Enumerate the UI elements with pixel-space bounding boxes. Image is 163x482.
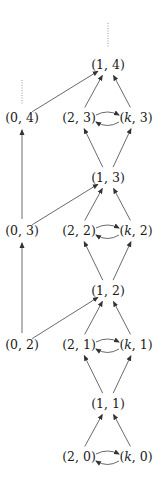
- node-n11: (1, 1): [91, 398, 125, 411]
- diagram-canvas: [0, 0, 163, 482]
- edge-n23-to-nk3: [96, 112, 119, 115]
- edge-n11-to-n21: [84, 356, 102, 393]
- edge-nk3-to-n23: [96, 122, 119, 126]
- edge-n22-to-nk2: [96, 225, 119, 228]
- edge-n21-to-n12: [85, 302, 103, 335]
- node-n23: (2, 3): [62, 112, 96, 125]
- node-nk1: (k, 1): [119, 339, 152, 352]
- edge-nk0-to-n20: [96, 461, 119, 465]
- edge-nk1-to-n12: [114, 302, 131, 335]
- edge-n03-to-n13: [32, 184, 98, 224]
- node-n14: (1, 4): [91, 59, 125, 72]
- node-n13: (1, 3): [91, 172, 125, 185]
- edge-n12-to-nk2: [113, 242, 131, 280]
- edge-nk3-to-n14: [114, 76, 131, 108]
- node-n04: (0, 4): [5, 112, 39, 125]
- edge-n02-to-n12: [32, 297, 98, 338]
- edge-n20-to-nk0: [96, 451, 119, 454]
- node-nk2: (k, 2): [119, 225, 152, 238]
- edge-n22-to-n13: [85, 189, 102, 221]
- node-n22: (2, 2): [62, 225, 96, 238]
- edge-n13-to-n23: [84, 129, 103, 167]
- edge-n13-to-nk3: [113, 129, 131, 167]
- edge-n23-to-n14: [85, 76, 102, 108]
- edge-n20-to-n11: [85, 415, 102, 447]
- node-nk0: (k, 0): [119, 451, 152, 464]
- edge-nk1-to-n21: [96, 349, 119, 353]
- edge-nk2-to-n13: [114, 189, 131, 221]
- edge-nk2-to-n22: [96, 235, 119, 239]
- node-n20: (2, 0): [62, 451, 96, 464]
- node-n02: (0, 2): [5, 339, 39, 352]
- edge-n04-to-n14: [32, 71, 98, 111]
- node-nk3: (k, 3): [119, 112, 152, 125]
- edge-n12-to-n22: [84, 242, 103, 280]
- edge-n21-to-nk1: [96, 339, 119, 342]
- edge-nk0-to-n11: [114, 415, 131, 447]
- node-n12: (1, 2): [91, 285, 125, 298]
- edge-n11-to-nk1: [113, 356, 131, 393]
- node-n03: (0, 3): [5, 225, 39, 238]
- node-n21: (2, 1): [62, 339, 96, 352]
